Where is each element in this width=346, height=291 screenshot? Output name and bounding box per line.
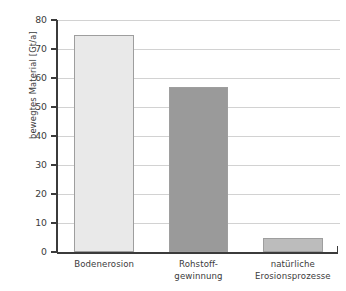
y-axis-tick-label: 20	[0, 189, 47, 198]
x-axis-category-label: Bodenerosion	[57, 259, 151, 271]
y-axis-tick-label: 0	[0, 247, 47, 256]
y-axis-title: bewegtes Material [Gt/a]	[28, 0, 38, 180]
bar	[169, 87, 228, 252]
x-axis-category-label-line: gewinnung	[151, 271, 245, 283]
y-axis-tick-label: 30	[0, 160, 47, 169]
y-axis-tick-label: 60	[0, 73, 47, 82]
x-axis-category-label: natürlicheErosionsprozesse	[246, 259, 340, 282]
x-axis-end-tick	[337, 246, 339, 253]
bar-chart-figure: bewegtes Material [Gt/a] 010203040506070…	[0, 0, 346, 291]
y-axis-tick-label: 80	[0, 15, 47, 24]
y-axis-tick-label: 70	[0, 44, 47, 53]
bar	[74, 35, 133, 253]
bar	[263, 238, 322, 253]
x-axis-category-label-line: Rohstoff-	[151, 259, 245, 271]
x-axis-line	[57, 252, 338, 254]
y-axis-tick-label: 10	[0, 218, 47, 227]
y-axis-tick-label: 50	[0, 102, 47, 111]
x-axis-category-label-line: Erosionsprozesse	[246, 271, 340, 283]
x-axis-category-label: Rohstoff-gewinnung	[151, 259, 245, 282]
x-axis-category-label-line: natürliche	[246, 259, 340, 271]
plot-area	[57, 20, 340, 252]
y-axis-line	[56, 20, 58, 253]
x-axis-category-label-line: Bodenerosion	[57, 259, 151, 271]
y-axis-tick-label: 40	[0, 131, 47, 140]
